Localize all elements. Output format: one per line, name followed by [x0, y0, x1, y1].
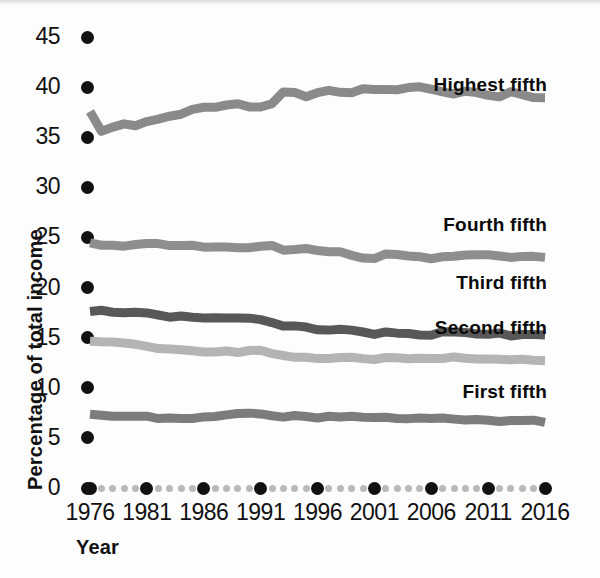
income-distribution-chart: Percentage of total income Year 45403530… — [0, 0, 600, 578]
series-label: First fifth — [462, 381, 547, 403]
series-label: Fourth fifth — [443, 214, 547, 236]
series-label: Third fifth — [456, 272, 547, 294]
series-labels: Highest fifthFourth fifthThird fifthSeco… — [0, 0, 600, 578]
series-label: Highest fifth — [434, 74, 547, 96]
series-label: Second fifth — [435, 317, 547, 339]
